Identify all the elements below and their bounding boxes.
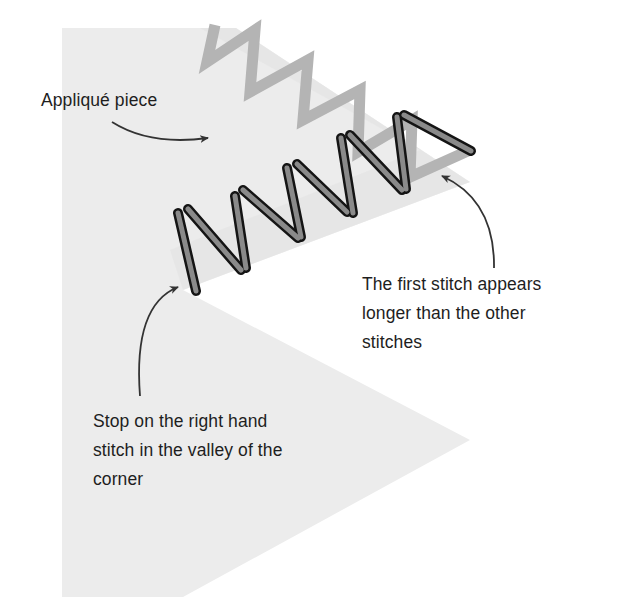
label-stop-stitch: Stop on the right hand stitch in the val… [93,407,282,494]
arrow-first-stitch [442,176,494,268]
label-first-stitch-line-3: stitches [362,328,541,357]
label-first-stitch-line-2: longer than the other [362,299,541,328]
label-applique-piece: Appliqué piece [41,86,157,115]
label-applique-piece-text: Appliqué piece [41,86,157,115]
label-stop-stitch-line-3: corner [93,465,282,494]
applique-corner-diagram: Appliqué piece The first stitch appears … [0,0,634,613]
label-stop-stitch-line-2: stitch in the valley of the [93,436,282,465]
label-first-stitch: The first stitch appears longer than the… [362,270,541,357]
label-stop-stitch-line-1: Stop on the right hand [93,407,282,436]
label-first-stitch-line-1: The first stitch appears [362,270,541,299]
